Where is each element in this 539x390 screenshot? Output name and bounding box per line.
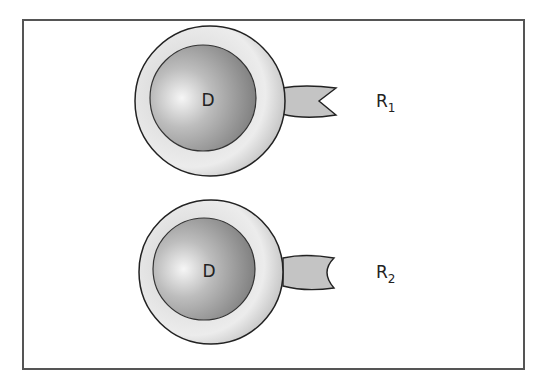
receptor-rounded-notch-shape (283, 256, 334, 290)
receptor-label-main: R (376, 262, 388, 282)
receptor-label-main: R (376, 91, 388, 111)
receptor-label-subscript: 1 (388, 101, 396, 115)
nucleus-label: D (202, 261, 215, 281)
diagram-canvas: D R1 D R2 (0, 0, 539, 390)
nucleus-label: D (201, 90, 214, 110)
receptor-label-subscript: 2 (388, 272, 396, 286)
